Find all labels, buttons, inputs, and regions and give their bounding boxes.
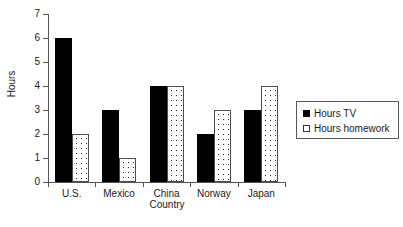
legend-item-hours-homework: Hours homework [303,122,390,134]
x-axis-tick [238,183,239,187]
x-axis-label-norway: Norway [190,188,237,199]
plot-area [48,14,285,182]
x-axis-tick [285,183,286,187]
y-axis-tick-label: 0 [26,177,40,187]
bar-mexico-hours-tv [102,110,119,182]
x-axis-line [48,182,286,183]
y-axis-tick-label: 6 [26,33,40,43]
legend-item-hours-tv: Hours TV [303,107,356,119]
bar-japan-hours-homework [261,86,278,182]
y-axis-tick-label: 5 [26,57,40,67]
x-axis-label-us: U.S. [48,188,95,199]
bar-norway-hours-tv [197,134,214,182]
x-axis-label-china: China [143,188,190,199]
x-axis-title: Country [48,199,286,210]
bar-japan-hours-tv [244,110,261,182]
legend-label-hours-tv: Hours TV [314,108,356,119]
x-axis-label-mexico: Mexico [95,188,142,199]
y-axis-tick-label: 7 [26,9,40,19]
legend-label-hours-homework: Hours homework [314,123,390,134]
y-axis-tick-label: 4 [26,81,40,91]
y-axis-tick-label: 3 [26,105,40,115]
x-axis-tick [95,183,96,187]
legend-swatch-tv-icon [303,110,310,117]
y-axis-tick-label: 1 [26,153,40,163]
bar-mexico-hours-homework [119,158,136,182]
bar-china-hours-tv [150,86,167,182]
x-axis-tick [143,183,144,187]
x-axis-tick [48,183,49,187]
legend: Hours TV Hours homework [296,101,399,139]
bar-chart: Hours Country 01234567 U.S.MexicoChinaNo… [0,0,403,227]
legend-swatch-homework-icon [303,125,310,132]
x-axis-tick [190,183,191,187]
bar-norway-hours-homework [214,110,231,182]
y-axis-tick-label: 2 [26,129,40,139]
bar-china-hours-homework [167,86,184,182]
bar-us-hours-tv [55,38,72,182]
x-axis-label-japan: Japan [238,188,285,199]
y-axis-title: Hours [6,71,17,98]
bar-us-hours-homework [72,134,89,182]
